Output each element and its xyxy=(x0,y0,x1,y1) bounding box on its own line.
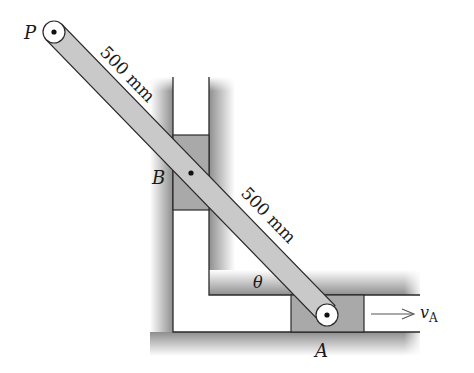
label-point-p: P xyxy=(23,22,37,43)
label-velocity: vA xyxy=(420,303,438,325)
label-point-b: B xyxy=(151,167,165,188)
pin-p xyxy=(43,21,65,43)
label-angle-theta: θ xyxy=(253,273,263,292)
label-point-a: A xyxy=(313,340,328,361)
pin-b xyxy=(188,170,193,175)
pin-a xyxy=(316,304,338,326)
mechanism-diagram: P B A θ vA 500 mm 500 mm xyxy=(0,0,474,373)
